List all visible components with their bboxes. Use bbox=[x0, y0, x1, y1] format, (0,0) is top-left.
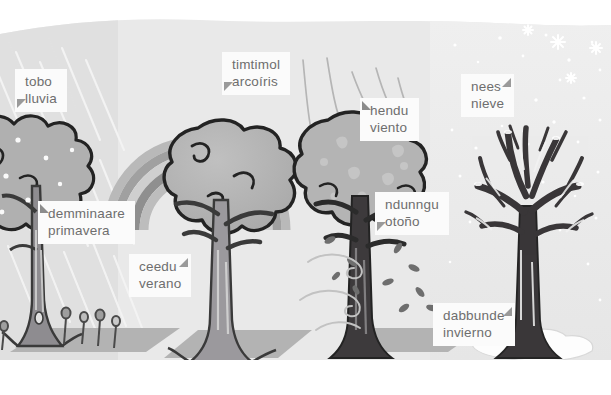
label-spanish: lluvia bbox=[25, 90, 57, 107]
label-native: ceedu bbox=[139, 258, 181, 275]
label-spanish: verano bbox=[139, 275, 181, 292]
label-native: dabbunde bbox=[443, 307, 505, 324]
seasons-illustration: tobo lluvia timtimol arcoíris hendu vien… bbox=[0, 0, 611, 395]
label-snow: nees nieve bbox=[461, 74, 514, 117]
label-native: nees bbox=[471, 78, 504, 95]
label-spanish: viento bbox=[370, 119, 409, 136]
label-native: ndunngu bbox=[385, 196, 439, 213]
label-native: timtimol bbox=[232, 56, 280, 73]
pointer-triangle-icon bbox=[362, 101, 371, 110]
label-rain: tobo lluvia bbox=[15, 69, 67, 112]
label-wind: hendu viento bbox=[360, 98, 419, 141]
pointer-triangle-icon bbox=[224, 82, 233, 91]
pointer-triangle-icon bbox=[503, 307, 512, 316]
pointer-triangle-icon bbox=[377, 222, 386, 231]
label-summer: ceedu verano bbox=[129, 254, 191, 297]
label-native: demminaare bbox=[48, 205, 125, 222]
pointer-triangle-icon bbox=[40, 204, 49, 213]
label-spanish: otoño bbox=[385, 213, 439, 230]
label-spanish: invierno bbox=[443, 324, 505, 341]
label-spanish: primavera bbox=[48, 222, 125, 239]
label-native: tobo bbox=[25, 73, 57, 90]
label-winter: dabbunde invierno bbox=[433, 303, 515, 346]
label-autumn: ndunngu otoño bbox=[375, 192, 449, 235]
label-spring: demminaare primavera bbox=[38, 201, 135, 244]
pointer-triangle-icon bbox=[17, 99, 26, 108]
label-rainbow: timtimol arcoíris bbox=[222, 52, 290, 95]
label-spanish: nieve bbox=[471, 95, 504, 112]
pointer-triangle-icon bbox=[502, 78, 511, 87]
pointer-triangle-icon bbox=[179, 258, 188, 267]
illustration-panel bbox=[0, 0, 611, 360]
label-spanish: arcoíris bbox=[232, 73, 280, 90]
label-native: hendu bbox=[370, 102, 409, 119]
